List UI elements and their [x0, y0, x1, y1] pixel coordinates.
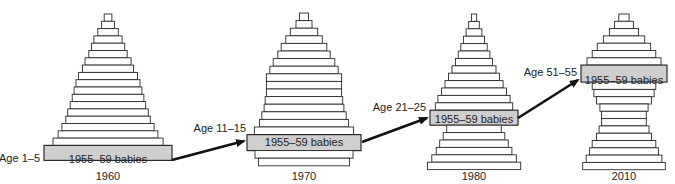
- age-bar: [463, 36, 484, 43]
- age-bar: [447, 125, 502, 132]
- cohort-pyramid-diagram: Age 1–5 1955–59 babies 1960 Age 11–15 19…: [0, 0, 675, 184]
- pyramid-1970: Age 11–15 1955–59 babies 1970: [194, 13, 361, 182]
- age-bar: [449, 73, 500, 80]
- age-bar: [264, 104, 344, 112]
- age-bar: [435, 103, 512, 110]
- age-bar: [85, 58, 131, 65]
- arrow-1980-to-2010: [518, 80, 578, 118]
- age-bar: [68, 109, 149, 116]
- age-bar: [600, 104, 648, 111]
- age-bar: [290, 28, 317, 36]
- age-bar: [603, 36, 644, 43]
- age-bar: [254, 127, 353, 135]
- age-bar: [619, 14, 629, 21]
- age-bar: [597, 43, 650, 50]
- age-bar: [255, 151, 353, 159]
- arrow-1960-to-1970: [172, 141, 244, 160]
- age-bar: [70, 102, 146, 109]
- cohort-label: 1955–59 babies: [585, 74, 664, 86]
- year-label: 1970: [292, 170, 316, 182]
- age-bar: [278, 51, 330, 59]
- age-bar: [296, 21, 312, 29]
- age-bar: [587, 58, 661, 65]
- age-label: Age 11–15: [194, 122, 246, 134]
- age-bar: [458, 51, 490, 58]
- age-bar: [427, 162, 520, 169]
- age-bar: [286, 36, 323, 44]
- age-bar: [597, 97, 652, 104]
- age-bar: [441, 88, 506, 95]
- age-bar: [469, 21, 480, 28]
- age-bar: [445, 81, 503, 88]
- age-bar: [456, 58, 493, 65]
- age-bar: [281, 43, 327, 51]
- age-bar: [440, 140, 509, 147]
- age-bar: [583, 162, 666, 169]
- age-bar: [590, 148, 659, 155]
- age-bar: [104, 14, 112, 21]
- age-bar: [432, 155, 517, 162]
- cohort-label: 1955–59 babies: [69, 153, 148, 165]
- age-bar: [592, 51, 656, 58]
- age-bar: [266, 81, 341, 89]
- age-bar: [53, 138, 163, 145]
- age-bar: [443, 133, 505, 140]
- year-label: 1960: [96, 170, 120, 182]
- age-bar: [615, 21, 634, 28]
- age-bar: [436, 147, 512, 154]
- age-bar: [89, 51, 127, 58]
- age-bar: [266, 74, 341, 82]
- age-bar: [98, 29, 119, 36]
- age-bar: [260, 119, 349, 127]
- age-label: Age 51–55: [524, 66, 577, 78]
- age-bar: [273, 59, 335, 67]
- age-bar: [594, 89, 654, 96]
- age-bar: [82, 65, 133, 72]
- age-label: Age 1–5: [0, 152, 40, 164]
- age-bar: [58, 131, 158, 138]
- age-bar: [609, 29, 638, 36]
- age-bar: [265, 97, 343, 105]
- age-bar: [66, 116, 151, 123]
- age-bar: [471, 14, 476, 21]
- age-bar: [599, 126, 649, 133]
- year-label: 1980: [462, 170, 486, 182]
- age-label: Age 21–25: [373, 101, 426, 113]
- age-bar: [94, 36, 122, 43]
- age-bar: [438, 95, 510, 102]
- pyramid-1960: Age 1–5 1955–59 babies 1960: [0, 14, 172, 182]
- age-bar: [299, 13, 308, 21]
- age-bar: [91, 43, 124, 50]
- age-bar: [79, 72, 138, 79]
- age-bar: [586, 155, 662, 162]
- age-bar: [461, 44, 487, 51]
- pyramid-2010: Age 51–55 1955–59 babies 2010: [524, 14, 667, 182]
- age-bar: [466, 29, 482, 36]
- cohort-label: 1955–59 babies: [435, 113, 514, 125]
- age-bar: [258, 158, 349, 166]
- age-bar: [102, 21, 115, 28]
- arrow-1970-to-1980: [362, 118, 427, 142]
- age-bar: [262, 112, 346, 120]
- cohort-label: 1955–59 babies: [265, 136, 344, 148]
- age-bar: [74, 87, 142, 94]
- age-bar: [592, 141, 656, 148]
- age-bar: [602, 119, 647, 126]
- year-label: 2010: [612, 170, 636, 182]
- age-bar: [72, 94, 144, 101]
- age-bar: [452, 66, 496, 73]
- age-bar: [266, 89, 341, 97]
- pyramid-1980: Age 21–25 1955–59 babies 1980: [373, 14, 521, 182]
- age-bar: [597, 133, 652, 140]
- age-bar: [270, 66, 338, 74]
- age-bar: [62, 124, 154, 131]
- age-bar: [602, 111, 647, 118]
- age-bar: [76, 80, 140, 87]
